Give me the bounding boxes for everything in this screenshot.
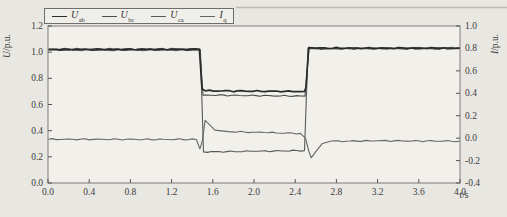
plot-svg: 0.00.40.81.21.62.02.42.83.23.64.00.00.20…	[0, 0, 507, 217]
x-tick-label: 3.6	[413, 187, 425, 197]
y-left-tick-label: 1.2	[31, 21, 43, 31]
legend-label-uca: Uca	[170, 10, 183, 23]
x-tick-label: 2.0	[248, 187, 260, 197]
y-right-tick-label: -0.2	[465, 156, 480, 166]
y-left-tick-label: 1.0	[31, 47, 43, 57]
x-tick-label: 1.6	[207, 187, 219, 197]
legend-label-uab: Uab	[71, 10, 84, 23]
legend-line-sample-uca	[151, 16, 166, 17]
y-right-tick-label: 1.0	[465, 21, 477, 31]
x-tick-label: 0.8	[124, 187, 136, 197]
legend-line-sample-uab	[52, 16, 67, 17]
legend-item-ubc: Ubc	[102, 10, 134, 23]
x-tick-label: 3.2	[372, 187, 384, 197]
x-axis-label: t/s	[460, 190, 469, 200]
y-right-tick-label: 0.0	[465, 133, 477, 143]
y-right-tick-label: 0.2	[465, 111, 477, 121]
y-right-tick-label: 0.4	[465, 88, 477, 98]
x-tick-label: 1.2	[166, 187, 178, 197]
y-left-tick-label: 0.2	[31, 152, 43, 162]
legend: UabUbcUcaIq	[44, 8, 234, 24]
legend-line-sample-iq	[200, 16, 215, 17]
legend-label-iq: Iq	[219, 10, 226, 23]
y-left-axis-label: U/p.u.	[2, 34, 12, 58]
y-right-tick-label: 0.6	[465, 66, 477, 76]
legend-item-uca: Uca	[151, 10, 183, 23]
legend-item-iq: Iq	[200, 10, 226, 23]
x-tick-label: 0.4	[83, 187, 95, 197]
y-left-tick-label: 0.4	[31, 126, 43, 136]
y-right-tick-label: -0.4	[465, 178, 480, 188]
legend-item-uab: Uab	[52, 10, 84, 23]
y-right-tick-label: 0.8	[465, 43, 477, 53]
y-left-tick-label: 0.0	[31, 178, 43, 188]
y-right-axis-label: I/p.u.	[490, 34, 500, 55]
legend-line-sample-ubc	[102, 16, 117, 17]
x-tick-label: 2.8	[330, 187, 342, 197]
x-tick-label: 2.4	[289, 187, 301, 197]
y-left-tick-label: 0.8	[31, 73, 43, 83]
legend-label-ubc: Ubc	[121, 10, 134, 23]
y-left-tick-label: 0.6	[31, 100, 43, 110]
voltage-current-chart-figure: UabUbcUcaIq 0.00.40.81.21.62.02.42.83.23…	[0, 0, 507, 217]
x-tick-label: 0.0	[42, 187, 54, 197]
